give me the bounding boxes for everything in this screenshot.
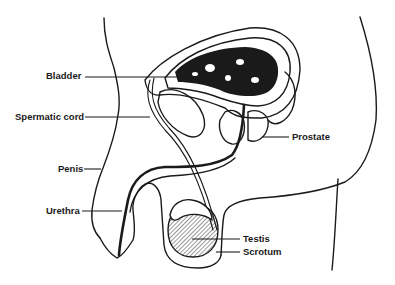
abdomen-outline — [92, 18, 119, 238]
label-bladder: Bladder — [46, 71, 81, 81]
label-prostate: Prostate — [292, 132, 330, 142]
label-penis: Penis — [58, 164, 83, 174]
label-spermatic-cord: Spermatic cord — [15, 112, 84, 122]
label-urethra: Urethra — [46, 206, 80, 216]
label-scrotum: Scrotum — [243, 247, 282, 257]
leg-outline — [332, 179, 338, 270]
anatomy-diagram — [0, 0, 395, 285]
label-testis: Testis — [243, 234, 270, 244]
bladder-lumen — [175, 47, 278, 96]
